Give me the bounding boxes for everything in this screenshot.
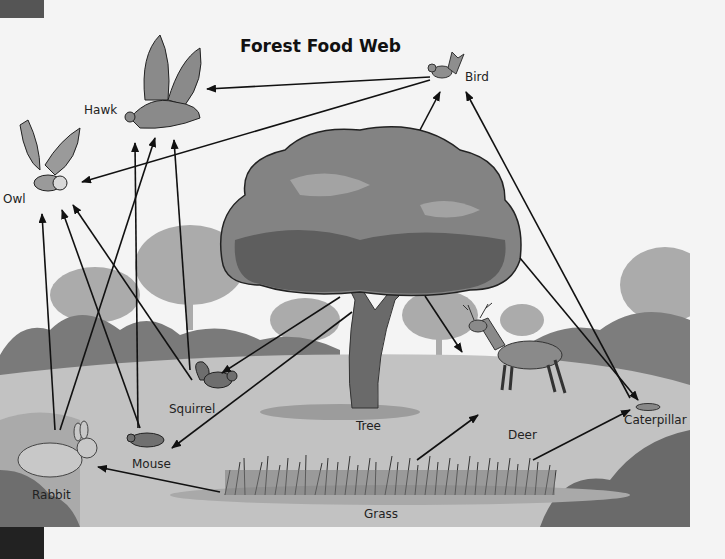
hawk-illustration (125, 35, 201, 128)
label-bird: Bird (465, 70, 489, 84)
owl-illustration (20, 120, 80, 191)
label-owl: Owl (3, 192, 26, 206)
page-title: Forest Food Web (240, 36, 401, 56)
label-caterpillar: Caterpillar (624, 413, 687, 427)
corner-block-bottom (0, 527, 44, 559)
food-web-diagram: Forest Food Web Hawk Bird Owl Tree Squir… (0, 0, 725, 559)
label-deer: Deer (508, 428, 537, 442)
caterpillar-illustration (636, 404, 660, 411)
label-hawk: Hawk (84, 103, 117, 117)
label-tree: Tree (356, 419, 381, 433)
bird-illustration (428, 52, 464, 78)
label-grass: Grass (364, 507, 398, 521)
scene-illustration (0, 0, 725, 559)
arrow-tree-to-bird (420, 92, 440, 130)
label-mouse: Mouse (132, 457, 171, 471)
corner-block (0, 0, 44, 18)
arrow-bird-to-hawk (207, 77, 430, 89)
label-squirrel: Squirrel (169, 402, 215, 416)
label-rabbit: Rabbit (32, 488, 71, 502)
